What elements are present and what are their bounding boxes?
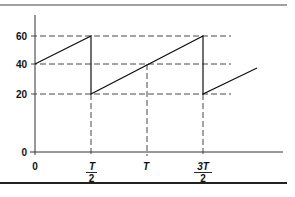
signal-segment-1 [35, 36, 257, 94]
x-tick-half-T-denominator: 2 [89, 173, 95, 184]
y-tick-40: 40 [16, 59, 28, 70]
x-tick-0: 0 [32, 161, 38, 172]
x-tick-labels: 0 T 2 T 3T 2 [32, 161, 212, 184]
y-tick-60: 60 [16, 31, 28, 42]
x-tick-T: T [143, 161, 150, 172]
sawtooth-series [35, 36, 257, 94]
x-tick-half-T-numerator: T [89, 161, 96, 172]
y-tick-20: 20 [16, 89, 28, 100]
x-tick-3half-T-numerator: 3T [197, 161, 210, 172]
vertical-gridlines [91, 64, 203, 156]
y-tick-labels: 60 40 20 0 [16, 31, 28, 158]
sawtooth-chart: 60 40 20 0 0 T 2 T 3T 2 [0, 0, 295, 197]
horizontal-gridlines [31, 36, 231, 94]
x-tick-3half-T-denominator: 2 [200, 173, 206, 184]
y-tick-0: 0 [21, 147, 27, 158]
